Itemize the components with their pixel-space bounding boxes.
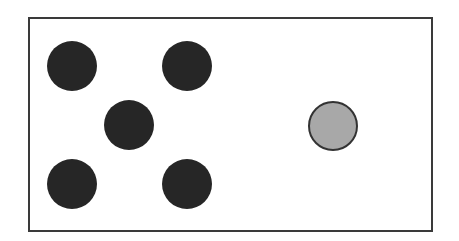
black-circle: [47, 41, 97, 91]
black-circle: [47, 159, 97, 209]
black-circle: [162, 159, 212, 209]
gray-circle: [308, 101, 358, 151]
black-circle: [162, 41, 212, 91]
black-circle: [104, 100, 154, 150]
